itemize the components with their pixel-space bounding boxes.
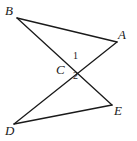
vertex-label-C: C: [56, 63, 65, 76]
geometry-canvas: [0, 0, 137, 141]
vertex-label-D: D: [5, 124, 14, 137]
segment-BA: [17, 18, 117, 42]
vertex-label-B: B: [5, 4, 13, 17]
angle-label-1: 1: [73, 51, 78, 61]
vertex-label-A: A: [118, 28, 126, 41]
angle-label-2: 2: [73, 71, 78, 81]
segment-AD: [14, 42, 117, 124]
segment-DE: [14, 105, 112, 124]
vertex-label-E: E: [114, 104, 122, 117]
geometry-figure: B A C D E 1 2: [0, 0, 137, 141]
